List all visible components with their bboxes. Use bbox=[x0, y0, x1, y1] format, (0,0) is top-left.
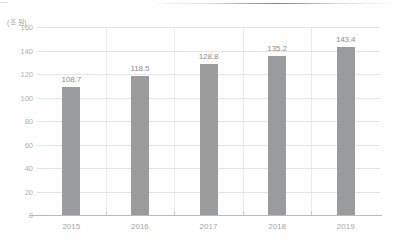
scan-artifact-line-left bbox=[0, 2, 8, 3]
bar bbox=[337, 47, 355, 215]
category-separator bbox=[243, 27, 244, 215]
x-axis-tick-label: 2018 bbox=[268, 222, 286, 231]
x-axis-line bbox=[30, 215, 382, 216]
bar bbox=[200, 64, 218, 215]
bar-value-label: 128.8 bbox=[199, 52, 219, 61]
x-axis-tick-label: 2019 bbox=[337, 222, 355, 231]
plot-area: 108.7118.5128.8135.2143.4 bbox=[37, 27, 380, 215]
y-axis-tick-label: 160 bbox=[7, 23, 33, 32]
x-axis-tick-mark bbox=[311, 211, 312, 215]
x-axis-tick-mark bbox=[243, 211, 244, 215]
x-axis-tick-label: 2016 bbox=[131, 222, 149, 231]
scan-artifact-line bbox=[150, 3, 395, 4]
gridline bbox=[37, 27, 380, 28]
bar-value-label: 108.7 bbox=[62, 75, 82, 84]
y-axis-tick-label: 120 bbox=[7, 70, 33, 79]
bar-value-label: 143.4 bbox=[336, 35, 356, 44]
bar bbox=[131, 76, 149, 215]
y-axis-tick-label: 80 bbox=[7, 117, 33, 126]
category-separator bbox=[174, 27, 175, 215]
y-axis-tick-label: 60 bbox=[7, 140, 33, 149]
y-axis-tick-labels: 160140120100806040200 bbox=[5, 27, 33, 215]
x-axis-tick-label: 2015 bbox=[62, 222, 80, 231]
chart-screenshot: (조 원) 160140120100806040200 108.7118.512… bbox=[0, 0, 395, 248]
bar-value-label: 118.5 bbox=[130, 64, 149, 73]
x-axis-tick-mark bbox=[106, 211, 107, 215]
bar-value-label: 135.2 bbox=[267, 44, 287, 53]
bar bbox=[62, 87, 80, 215]
bar bbox=[268, 56, 286, 215]
category-separator bbox=[106, 27, 107, 215]
y-axis-tick-label: 40 bbox=[7, 164, 33, 173]
x-axis-tick-label: 2017 bbox=[200, 222, 218, 231]
y-axis-tick-label: 20 bbox=[7, 187, 33, 196]
category-separator bbox=[311, 27, 312, 215]
y-axis-tick-label: 100 bbox=[7, 93, 33, 102]
x-axis-tick-mark bbox=[174, 211, 175, 215]
y-axis-tick-label: 140 bbox=[7, 46, 33, 55]
